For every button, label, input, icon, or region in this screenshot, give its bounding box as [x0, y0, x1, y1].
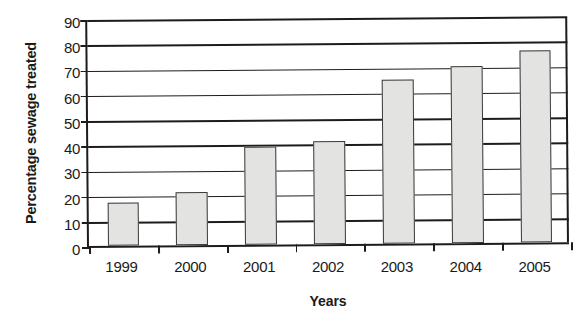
- y-axis-tick-mark: [81, 172, 88, 174]
- y-axis-tick-label: 70: [46, 65, 80, 80]
- y-axis-tick-mark: [81, 71, 88, 73]
- x-axis-tick-label: 2001: [243, 258, 275, 275]
- x-axis-tick-label: 2004: [450, 258, 482, 275]
- y-axis-title: Percentage sewage treated: [23, 8, 39, 258]
- y-axis-tick-mark: [81, 121, 88, 123]
- x-axis-tick-mark: [227, 245, 229, 253]
- bar-2002: [313, 141, 345, 245]
- x-axis-tick-mark: [89, 246, 91, 254]
- y-axis-tick-label: 50: [46, 115, 80, 130]
- x-axis-tick-mark: [158, 245, 160, 253]
- y-axis-tick-mark: [81, 146, 88, 148]
- plot-area: [85, 17, 569, 248]
- x-axis-tick-label: 2003: [381, 258, 413, 275]
- x-axis-title: Years: [87, 293, 569, 309]
- bar-chart-figure: Percentage sewage treated 01020304050607…: [0, 0, 581, 330]
- y-axis-tick-label: 10: [46, 216, 80, 231]
- x-axis-tick-label-group: 1999200020012002200320042005: [87, 258, 569, 284]
- y-axis-tick-label: 20: [46, 191, 80, 206]
- y-axis-tick-mark: [80, 20, 87, 22]
- x-axis-tick-mark: [433, 243, 435, 251]
- y-axis-tick-mark: [82, 197, 89, 199]
- y-axis-tick-label: 60: [46, 90, 80, 105]
- x-axis-tick-label: 1999: [105, 258, 137, 275]
- bar-2001: [245, 146, 277, 245]
- y-axis-tick-label-group: 0102030405060708090: [46, 22, 80, 248]
- y-axis-tick-mark: [81, 96, 88, 98]
- x-axis-tick-label: 2005: [518, 258, 550, 275]
- y-axis-tick-label: 40: [46, 141, 80, 156]
- bar-2004: [450, 66, 483, 243]
- y-axis-tick-label: 80: [46, 40, 80, 55]
- x-axis-tick-mark: [571, 242, 573, 250]
- y-axis-tick-label: 90: [46, 15, 80, 30]
- x-axis-tick-mark: [364, 244, 366, 252]
- x-axis-tick-label: 2002: [312, 258, 344, 275]
- y-axis-tick-label: 30: [46, 166, 80, 181]
- bar-2005: [519, 51, 552, 243]
- bars-layer: [87, 17, 569, 246]
- y-axis-tick-label: 0: [46, 242, 80, 257]
- y-axis-tick-mark: [82, 247, 89, 249]
- y-axis-tick-mark: [80, 45, 87, 47]
- x-axis-tick-mark: [502, 243, 504, 251]
- bar-2000: [176, 192, 208, 245]
- bar-2003: [382, 79, 415, 243]
- bar-1999: [107, 203, 139, 246]
- x-axis-tick-label: 2000: [174, 258, 206, 275]
- x-axis-tick-mark: [296, 244, 298, 252]
- y-axis-tick-mark: [82, 222, 89, 224]
